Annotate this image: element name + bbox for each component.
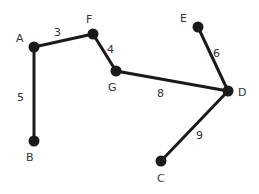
edge-weight-label: 3	[54, 26, 61, 39]
edge-d-c	[161, 91, 228, 161]
labels-layer: 345869AFGEDBC	[16, 12, 246, 185]
edge-weight-label: 5	[17, 91, 24, 104]
node-b	[29, 136, 40, 147]
edge-weight-label: 8	[157, 87, 164, 100]
node-label: A	[16, 32, 24, 45]
node-a	[29, 42, 40, 53]
edge-weight-label: 4	[107, 43, 114, 56]
node-d	[223, 86, 234, 97]
node-label: B	[26, 151, 34, 164]
edge-weight-label: 9	[196, 129, 203, 142]
node-label: C	[157, 172, 165, 185]
node-c	[156, 156, 167, 167]
node-g	[111, 66, 122, 77]
node-e	[193, 22, 204, 33]
node-label: G	[108, 81, 117, 94]
node-label: D	[238, 86, 246, 99]
edge-a-f	[34, 34, 93, 47]
edge-g-d	[116, 71, 228, 91]
weighted-graph-diagram: 345869AFGEDBC	[0, 0, 259, 194]
node-label: F	[86, 13, 92, 26]
edge-weight-label: 6	[213, 47, 220, 60]
nodes-layer	[29, 22, 234, 167]
node-f	[88, 29, 99, 40]
node-label: E	[180, 12, 187, 25]
